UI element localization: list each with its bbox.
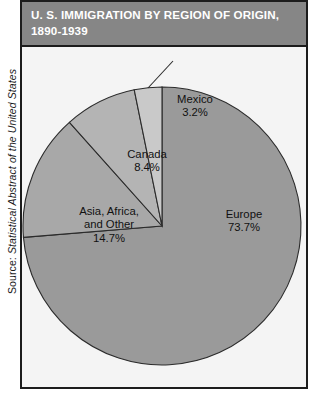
pie-chart-svg: [22, 47, 306, 387]
chart-frame: U. S. IMMIGRATION BY REGION OF ORIGIN, 1…: [20, 0, 308, 389]
source-credit: Source: Statistical Abstract of the Unit…: [0, 0, 20, 300]
mexico-callout-leader-line: [148, 61, 173, 88]
chart-title-line1: U. S. IMMIGRATION BY REGION OF ORIGIN,: [31, 7, 306, 23]
chart-title-band: U. S. IMMIGRATION BY REGION OF ORIGIN, 1…: [22, 2, 306, 47]
chart-page: Source: Statistical Abstract of the Unit…: [0, 0, 309, 400]
source-credit-label: Source:: [6, 254, 18, 294]
chart-title-line2: 1890-1939: [31, 23, 306, 39]
plot-area: Europe 73.7% Mexico 3.2% Canada 8.4% Asi…: [22, 47, 306, 387]
source-credit-publication: Statistical Abstract of the United State…: [6, 69, 18, 254]
